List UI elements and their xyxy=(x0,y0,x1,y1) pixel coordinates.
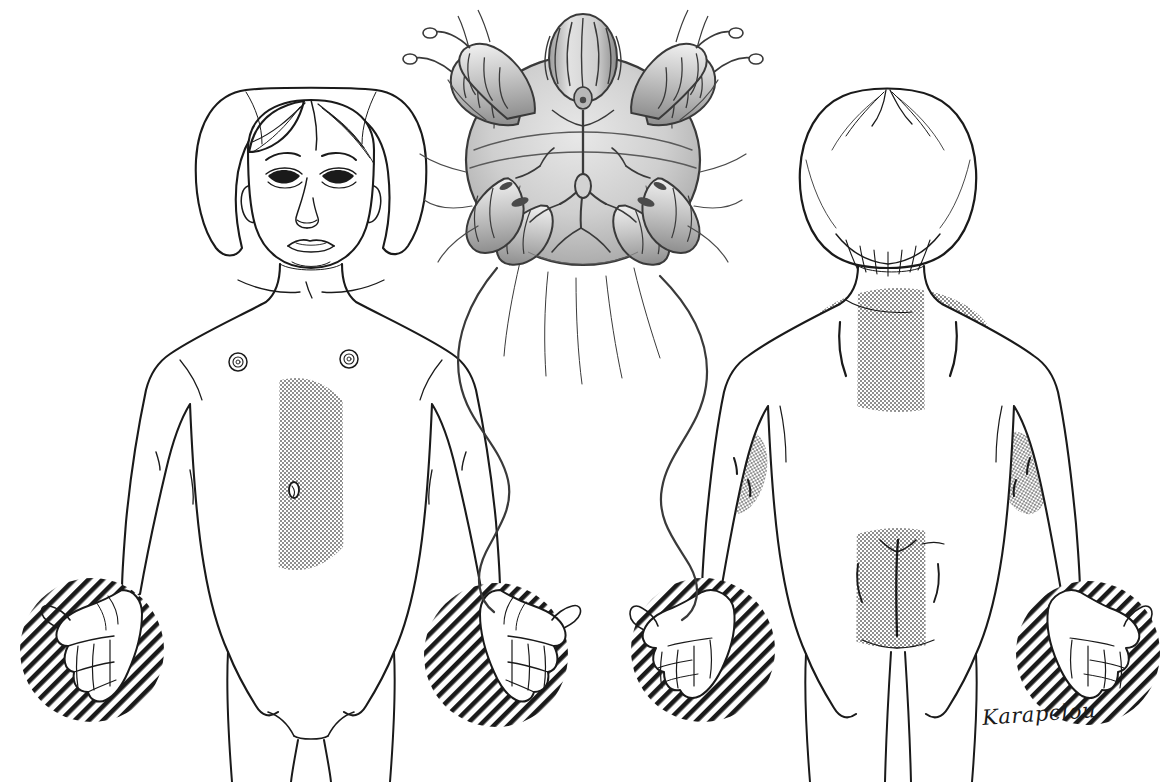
pretarsal-sucker xyxy=(403,54,417,64)
scabies-distribution-drawing xyxy=(0,0,1166,782)
umbilicus xyxy=(289,482,299,498)
head-back-outline xyxy=(800,89,976,269)
illustration-canvas: Scabies lesion distribution in a child S… xyxy=(0,0,1166,782)
